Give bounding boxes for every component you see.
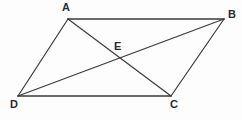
vertex-label-d: D — [10, 99, 18, 110]
vertex-label-c: C — [170, 99, 178, 110]
side-BC-line — [171, 19, 224, 96]
geometry-figure: A B C D E — [0, 0, 242, 120]
vertex-label-b: B — [228, 9, 236, 20]
vertex-label-a: A — [62, 2, 70, 13]
diagonal-BD-line — [18, 19, 224, 96]
side-DA-line — [18, 19, 68, 96]
parallelogram-diagram — [0, 0, 242, 120]
vertex-label-e: E — [114, 41, 121, 52]
